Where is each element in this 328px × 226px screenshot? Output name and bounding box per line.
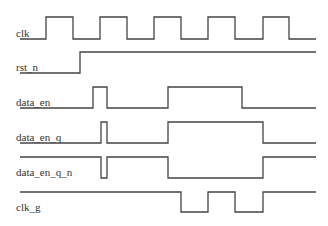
waveform-rst-n xyxy=(20,52,316,73)
waveform-clk xyxy=(20,17,316,39)
signal-labels: clkrst_ndata_endata_en_qdata_en_q_nclk_g xyxy=(16,27,73,213)
signal-label-clk: clk xyxy=(16,27,30,39)
timing-diagram: clkrst_ndata_endata_en_qdata_en_q_nclk_g xyxy=(0,0,328,226)
signal-label-clk-g: clk_g xyxy=(16,201,41,213)
waveform-clk-g xyxy=(20,192,316,212)
waveform-data-en-q xyxy=(20,122,316,143)
signal-label-data-en-q: data_en_q xyxy=(16,131,62,143)
signal-label-data-en: data_en xyxy=(16,96,51,108)
signal-waveforms xyxy=(20,17,316,212)
signal-label-rst-n: rst_n xyxy=(16,61,39,73)
signal-label-data-en-q-n: data_en_q_n xyxy=(16,166,73,178)
waveform-data-en xyxy=(20,87,316,108)
